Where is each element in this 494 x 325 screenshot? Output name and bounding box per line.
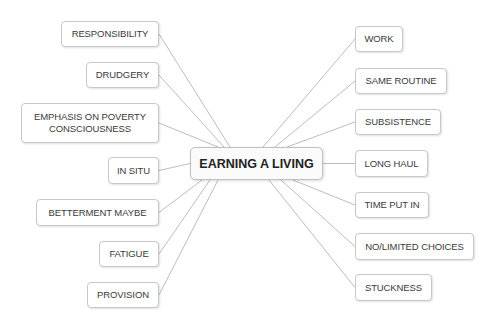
branch-node-left[interactable]: PROVISION xyxy=(87,282,159,308)
branch-node-right[interactable]: WORK xyxy=(355,26,403,52)
connector-line xyxy=(159,180,218,295)
branch-node-label: FATIGUE xyxy=(109,248,148,260)
connector-line xyxy=(159,34,230,147)
mind-map-canvas: EARNING A LIVING RESPONSIBILITYDRUDGERYE… xyxy=(0,0,494,325)
branch-node-left[interactable]: DRUDGERY xyxy=(86,62,159,88)
branch-node-label: PROVISION xyxy=(97,289,149,301)
branch-node-label: SUBSISTENCE xyxy=(365,116,431,128)
connector-line xyxy=(159,180,210,254)
branch-node-label: TIME PUT IN xyxy=(364,199,419,211)
branch-node-right[interactable]: STUCKNESS xyxy=(355,274,432,301)
branch-node-label: LONG HAUL xyxy=(364,158,418,170)
central-topic[interactable]: EARNING A LIVING xyxy=(190,147,323,180)
branch-node-label: SAME ROUTINE xyxy=(365,75,436,87)
central-topic-label: EARNING A LIVING xyxy=(199,157,313,171)
branch-node-label: DRUDGERY xyxy=(96,69,149,81)
branch-node-right[interactable]: LONG HAUL xyxy=(355,150,428,177)
connector-line xyxy=(159,164,190,171)
branch-node-right[interactable]: TIME PUT IN xyxy=(355,192,429,218)
connector-line xyxy=(263,39,355,147)
branch-node-label: BETTERMENT MAYBE xyxy=(49,207,147,219)
branch-node-label: WORK xyxy=(364,33,393,45)
branch-node-right[interactable]: SAME ROUTINE xyxy=(355,68,447,94)
branch-node-left[interactable]: IN SITU xyxy=(108,157,159,184)
connector-line xyxy=(293,180,355,205)
branch-node-left[interactable]: EMPHASIS ON POVERTY CONSCIOUSNESS xyxy=(21,103,159,143)
branch-node-left[interactable]: RESPONSIBILITY xyxy=(61,21,159,47)
branch-node-label: NO/LIMITED CHOICES xyxy=(365,241,464,253)
connector-line xyxy=(159,123,218,147)
branch-node-left[interactable]: FATIGUE xyxy=(99,241,159,267)
connector-line xyxy=(269,180,355,288)
branch-node-right[interactable]: SUBSISTENCE xyxy=(355,109,441,135)
branch-node-right[interactable]: NO/LIMITED CHOICES xyxy=(355,233,474,260)
branch-node-label: IN SITU xyxy=(117,165,150,177)
connector-line xyxy=(159,180,202,213)
connector-line xyxy=(287,122,355,147)
branch-node-label: RESPONSIBILITY xyxy=(72,28,149,40)
branch-node-label: STUCKNESS xyxy=(365,282,422,294)
branch-node-label: EMPHASIS ON POVERTY CONSCIOUSNESS xyxy=(34,111,146,135)
branch-node-left[interactable]: BETTERMENT MAYBE xyxy=(36,199,159,226)
